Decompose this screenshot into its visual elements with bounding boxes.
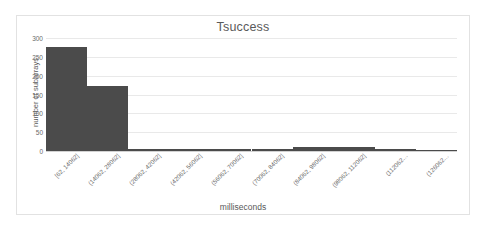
x-axis-tick-label: (56062, 70062] bbox=[210, 152, 244, 186]
x-axis-tick-label: (126062… bbox=[424, 152, 449, 177]
x-axis-tick-label: (28062, 42062] bbox=[128, 152, 162, 186]
y-axis-tick-label: 50 bbox=[36, 129, 43, 136]
x-axis-tick-label: (42062, 56062] bbox=[169, 152, 203, 186]
bar[interactable] bbox=[252, 149, 293, 151]
gridline bbox=[46, 57, 457, 58]
bar[interactable] bbox=[334, 147, 375, 151]
bar[interactable] bbox=[46, 47, 87, 151]
y-axis-tick-label: 250 bbox=[32, 53, 43, 60]
x-axis-tick-label: (98062, 112062] bbox=[331, 152, 368, 189]
x-axis-tick-label: (70062, 84062] bbox=[251, 152, 285, 186]
y-axis-tick-label: 100 bbox=[32, 110, 43, 117]
gridline bbox=[46, 38, 457, 39]
chart-container: Tsuccess number of subarrays 05010015020… bbox=[16, 15, 470, 215]
bar[interactable] bbox=[416, 150, 457, 152]
bar[interactable] bbox=[375, 149, 416, 151]
y-axis-tick-label: 300 bbox=[32, 35, 43, 42]
x-axis-tick-label: (112062… bbox=[383, 152, 408, 177]
bar[interactable] bbox=[87, 86, 128, 151]
bar[interactable] bbox=[293, 147, 334, 151]
y-axis-tick-label: 200 bbox=[32, 72, 43, 79]
x-axis-tick-labels: [62, 14062](14062, 28062](28062, 42062](… bbox=[46, 152, 457, 204]
bar[interactable] bbox=[128, 149, 169, 151]
chart-title: Tsuccess bbox=[17, 20, 469, 34]
y-axis-tick-label: 0 bbox=[39, 148, 43, 155]
x-axis-tick-label: [62, 14062] bbox=[53, 152, 80, 179]
x-axis-title: milliseconds bbox=[17, 202, 469, 212]
plot-area: 050100150200250300 bbox=[46, 38, 457, 151]
gridline bbox=[46, 76, 457, 77]
x-axis-tick-label: (14062, 28062] bbox=[86, 152, 120, 186]
bar[interactable] bbox=[169, 149, 210, 151]
y-axis-tick-label: 150 bbox=[32, 91, 43, 98]
x-axis-tick-label: (84062, 98062] bbox=[292, 152, 326, 186]
bar[interactable] bbox=[210, 149, 251, 151]
